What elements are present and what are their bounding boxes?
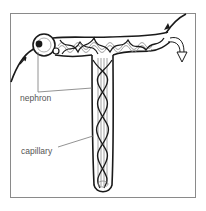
outgoing-vessel xyxy=(166,14,186,33)
vertical-loop-mesh xyxy=(92,55,113,192)
nephron-label: nephron xyxy=(20,93,51,103)
glomerulus xyxy=(36,41,43,48)
nephron-capillary-diagram xyxy=(0,0,206,211)
capillary-leader-line xyxy=(58,136,93,147)
nephron-leader-line xyxy=(38,52,92,92)
horizontal-tubule-mesh xyxy=(53,32,170,57)
collecting-duct xyxy=(170,38,184,52)
capillary-label: capillary xyxy=(21,146,52,156)
down-arrow-icon xyxy=(177,52,187,62)
